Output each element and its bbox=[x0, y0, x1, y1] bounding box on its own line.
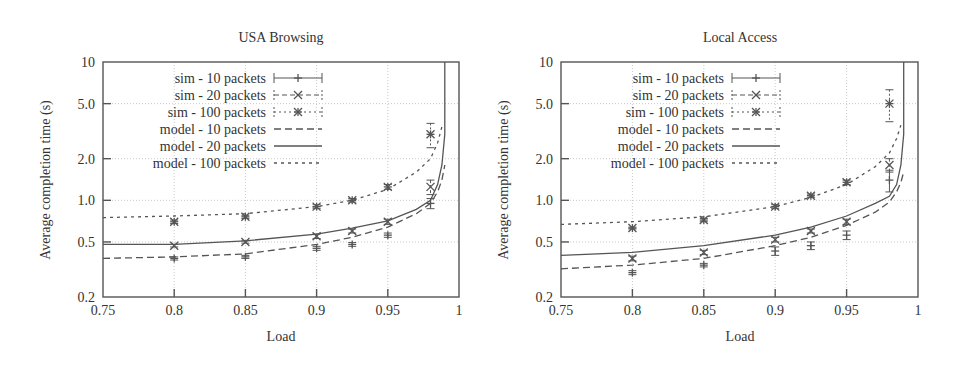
legend-marker bbox=[752, 74, 760, 82]
data-point bbox=[427, 183, 435, 191]
y-tick-label: 0.5 bbox=[78, 235, 96, 250]
legend-item: sim - 20 packets bbox=[175, 88, 322, 103]
data-point bbox=[885, 176, 893, 184]
x-tick-label: 0.95 bbox=[834, 303, 859, 318]
series-model-10-packets bbox=[561, 172, 904, 269]
data-point bbox=[427, 130, 435, 138]
legend-item: model - 20 packets bbox=[618, 139, 780, 154]
x-tick-label: 0.85 bbox=[692, 303, 717, 318]
series-model-100-packets bbox=[103, 127, 442, 218]
legend-label: model - 100 packets bbox=[611, 156, 724, 171]
chart-local-access: Local Access Load Average completion tim… bbox=[496, 30, 922, 344]
x-tick-label: 1 bbox=[915, 303, 922, 318]
legend-label: sim - 20 packets bbox=[633, 88, 724, 103]
data-point bbox=[807, 192, 815, 200]
legend-item: sim - 100 packets bbox=[168, 105, 322, 120]
x-tick-label: 0.9 bbox=[766, 303, 784, 318]
data-point bbox=[700, 261, 708, 269]
y-axis-label: Average completion time (s) bbox=[38, 100, 54, 260]
legend-item: model - 10 packets bbox=[618, 122, 780, 137]
data-point bbox=[807, 242, 815, 250]
model-line bbox=[561, 125, 901, 224]
data-point bbox=[170, 254, 178, 262]
data-point bbox=[885, 100, 893, 108]
x-tick-label: 0.8 bbox=[624, 303, 642, 318]
y-axis-label: Average completion time (s) bbox=[496, 100, 512, 260]
legend-item: model - 100 packets bbox=[153, 156, 322, 171]
gridlines bbox=[561, 62, 918, 297]
chart-usa-browsing: USA Browsing Load Average completion tim… bbox=[38, 30, 463, 344]
model-line bbox=[103, 127, 442, 218]
y-tick-label: 0.2 bbox=[78, 290, 96, 305]
legend-label: model - 10 packets bbox=[618, 122, 724, 137]
legend-label: model - 10 packets bbox=[160, 122, 266, 137]
y-tick-label: 2.0 bbox=[78, 152, 96, 167]
legend-label: model - 20 packets bbox=[160, 139, 266, 154]
legend-item: sim - 20 packets bbox=[633, 88, 780, 103]
y-tick-label: 5.0 bbox=[78, 97, 96, 112]
y-tick-label: 0.5 bbox=[536, 235, 554, 250]
legend-label: sim - 100 packets bbox=[168, 105, 266, 120]
x-tick-label: 0.9 bbox=[308, 303, 326, 318]
legend-marker bbox=[294, 108, 302, 116]
x-axis-label: Load bbox=[267, 329, 296, 344]
data-point bbox=[313, 244, 321, 252]
x-tick-label: 0.8 bbox=[165, 303, 183, 318]
chart-title: Local Access bbox=[703, 30, 777, 45]
data-point bbox=[628, 224, 636, 232]
legend-label: sim - 100 packets bbox=[626, 105, 724, 120]
legend-marker bbox=[294, 74, 302, 82]
data-point bbox=[771, 247, 779, 255]
data-point bbox=[628, 269, 636, 277]
y-tick-label: 10 bbox=[81, 55, 95, 70]
legend-item: sim - 100 packets bbox=[626, 105, 780, 120]
model-line bbox=[561, 172, 904, 269]
legend-item: model - 100 packets bbox=[611, 156, 780, 171]
y-tick-label: 2.0 bbox=[536, 152, 554, 167]
y-tick-label: 10 bbox=[539, 55, 553, 70]
legend-item: model - 10 packets bbox=[160, 122, 322, 137]
y-tick-label: 1.0 bbox=[78, 193, 96, 208]
series-sim-10-packets bbox=[170, 199, 434, 263]
data-point bbox=[384, 231, 392, 239]
x-tick-label: 0.75 bbox=[91, 303, 116, 318]
legend-label: sim - 10 packets bbox=[175, 71, 266, 86]
x-tick-label: 1 bbox=[456, 303, 463, 318]
series-model-100-packets bbox=[561, 125, 901, 224]
legend-marker bbox=[752, 108, 760, 116]
gridlines bbox=[103, 62, 459, 297]
chart-title: USA Browsing bbox=[238, 30, 323, 45]
y-tick-label: 5.0 bbox=[536, 97, 554, 112]
legend-label: model - 100 packets bbox=[153, 156, 266, 171]
x-tick-label: 0.85 bbox=[233, 303, 258, 318]
legend-item: sim - 10 packets bbox=[633, 71, 780, 86]
data-point bbox=[700, 248, 708, 256]
plot-frame bbox=[561, 62, 918, 297]
legend-item: model - 20 packets bbox=[160, 139, 322, 154]
series-sim-10-packets bbox=[628, 170, 893, 276]
legend-label: sim - 10 packets bbox=[633, 71, 724, 86]
legend: sim - 10 packetssim - 20 packetssim - 10… bbox=[611, 71, 780, 171]
data-point bbox=[885, 161, 893, 169]
data-point bbox=[843, 231, 851, 239]
y-tick-label: 0.2 bbox=[536, 290, 554, 305]
legend: sim - 10 packetssim - 20 packetssim - 10… bbox=[153, 71, 322, 171]
data-point bbox=[170, 218, 178, 226]
x-axis-label: Load bbox=[726, 329, 755, 344]
plot-frame bbox=[103, 62, 459, 297]
legend-label: sim - 20 packets bbox=[175, 88, 266, 103]
x-tick-label: 0.95 bbox=[376, 303, 401, 318]
series-sim-20-packets bbox=[628, 159, 893, 263]
legend-item: sim - 10 packets bbox=[175, 71, 322, 86]
figure: USA Browsing Load Average completion tim… bbox=[0, 0, 958, 365]
x-tick-label: 0.75 bbox=[549, 303, 574, 318]
y-tick-label: 1.0 bbox=[536, 193, 554, 208]
legend-label: model - 20 packets bbox=[618, 139, 724, 154]
